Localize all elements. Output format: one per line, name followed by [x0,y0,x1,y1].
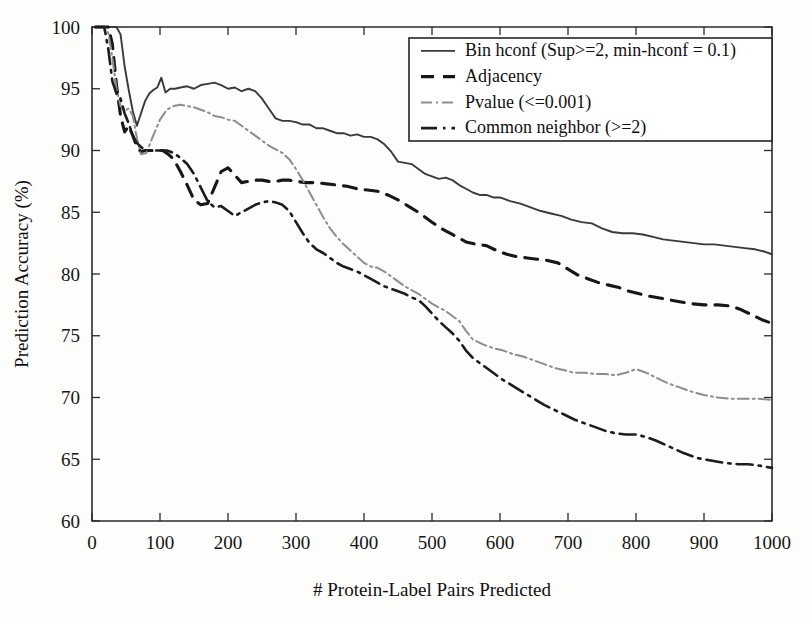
y-tick-label-80: 80 [61,264,80,285]
y-axis-title: Prediction Accuracy (%) [11,180,33,368]
x-tick-label-600: 600 [486,532,515,553]
y-tick-label-65: 65 [61,449,80,470]
x-tick-label-200: 200 [214,532,243,553]
line-chart: 6065707580859095100010020030040050060070… [0,0,810,618]
x-tick-label-300: 300 [282,532,311,553]
x-tick-label-800: 800 [622,532,651,553]
y-tick-label-75: 75 [61,325,80,346]
x-tick-label-0: 0 [87,532,97,553]
figure-container: 6065707580859095100010020030040050060070… [0,0,810,618]
y-tick-label-90: 90 [61,140,80,161]
x-axis-title: # Protein-Label Pairs Predicted [313,579,551,600]
y-tick-label-85: 85 [61,202,80,223]
legend-label-1[interactable]: Adjacency [465,66,542,86]
y-tick-label-95: 95 [61,78,80,99]
x-tick-label-900: 900 [690,532,719,553]
legend-label-0[interactable]: Bin hconf (Sup>=2, min-hconf = 0.1) [465,40,736,61]
x-tick-label-400: 400 [350,532,379,553]
x-tick-label-700: 700 [554,532,583,553]
chart-legend[interactable]: Bin hconf (Sup>=2, min-hconf = 0.1)Adjac… [409,38,772,141]
y-tick-label-100: 100 [52,17,81,38]
x-tick-label-1000: 1000 [753,532,791,553]
x-tick-label-500: 500 [418,532,447,553]
y-tick-label-60: 60 [61,511,80,532]
legend-label-2[interactable]: Pvalue (<=0.001) [465,92,591,113]
y-tick-label-70: 70 [61,387,80,408]
x-tick-label-100: 100 [146,532,175,553]
legend-label-3[interactable]: Common neighbor (>=2) [465,117,646,138]
